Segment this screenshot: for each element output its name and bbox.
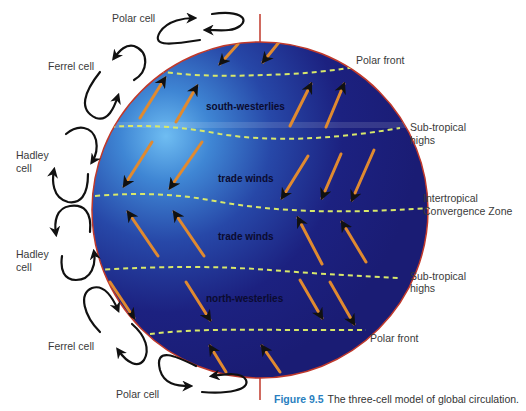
label-itcz-2: Convergence Zone xyxy=(423,205,512,217)
label-south-polar-cell: Polar cell xyxy=(116,388,159,400)
south-hadley-cell-bottom xyxy=(62,252,95,280)
label-south-hadley-cell-2: cell xyxy=(16,261,32,273)
label-north-subtropical-2: highs xyxy=(410,134,435,146)
zone-label-trade-winds-south: trade winds xyxy=(218,231,274,242)
figure-number: Figure 9.5 xyxy=(274,393,324,405)
zone-label-north-westerlies: north-westerlies xyxy=(206,293,284,304)
label-north-subtropical-1: Sub-tropical xyxy=(410,121,466,133)
label-south-polar-front: Polar front xyxy=(370,332,419,344)
north-hadley-cell-bottom xyxy=(53,170,88,202)
north-ferrel-cell-bottom xyxy=(85,72,118,119)
label-north-hadley-cell-2: cell xyxy=(16,162,32,174)
north-polar-cell-return xyxy=(206,13,244,30)
label-south-subtropical-1: Sub-tropical xyxy=(410,270,466,282)
zone-label-trade-winds-north: trade winds xyxy=(218,173,274,184)
label-north-hadley-cell-1: Hadley xyxy=(16,149,49,161)
label-south-subtropical-2: highs xyxy=(410,282,435,294)
figure-caption-text: The three-cell model of global circulati… xyxy=(328,393,519,405)
label-north-polar-front: Polar front xyxy=(356,54,405,66)
figure-caption: Figure 9.5The three-cell model of global… xyxy=(274,393,519,405)
globe: south-westerlies trade winds trade winds… xyxy=(90,41,440,378)
south-ferrel-cell-top xyxy=(84,287,118,332)
label-itcz-1: Intertropical xyxy=(423,192,478,204)
north-polar-cell-loop xyxy=(158,18,200,44)
zone-label-south-westerlies: south-westerlies xyxy=(206,101,285,112)
south-hadley-cell-top xyxy=(55,206,90,234)
three-cell-diagram: south-westerlies trade winds trade winds… xyxy=(0,0,526,411)
label-south-ferrel-cell: Ferrel cell xyxy=(48,340,94,352)
label-north-polar-cell: Polar cell xyxy=(112,12,155,24)
subtropical-band xyxy=(90,122,440,128)
north-hadley-cell-top xyxy=(66,128,97,162)
north-ferrel-cell-top xyxy=(114,46,145,80)
label-south-hadley-cell-1: Hadley xyxy=(16,248,49,260)
label-north-ferrel-cell: Ferrel cell xyxy=(48,60,94,72)
